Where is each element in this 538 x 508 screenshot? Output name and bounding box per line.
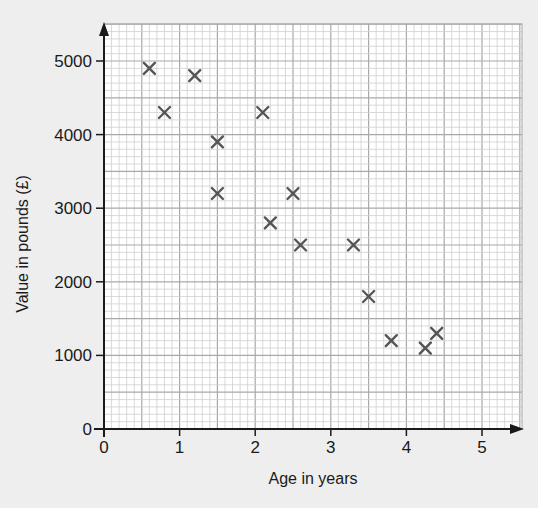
x-tick-label: 1 bbox=[175, 438, 184, 457]
x-tick-label: 0 bbox=[99, 438, 108, 457]
x-tick-label: 3 bbox=[326, 438, 335, 457]
y-tick-label: 1000 bbox=[54, 346, 92, 365]
graph-paper-grid bbox=[104, 24, 522, 429]
x-tick-label: 5 bbox=[477, 438, 486, 457]
x-tick-label: 2 bbox=[250, 438, 259, 457]
y-tick-label: 2000 bbox=[54, 273, 92, 292]
y-tick-label: 0 bbox=[83, 420, 92, 439]
y-tick-label: 4000 bbox=[54, 126, 92, 145]
x-axis-title: Age in years bbox=[269, 470, 358, 487]
y-axis-ticks: 010002000300040005000 bbox=[54, 52, 104, 439]
scatter-chart: 012345 010002000300040005000 Age in year… bbox=[0, 0, 538, 508]
y-tick-label: 5000 bbox=[54, 52, 92, 71]
y-axis-title: Value in pounds (£) bbox=[14, 175, 31, 313]
y-tick-label: 3000 bbox=[54, 199, 92, 218]
x-tick-label: 4 bbox=[402, 438, 411, 457]
x-axis-ticks: 012345 bbox=[99, 429, 486, 457]
